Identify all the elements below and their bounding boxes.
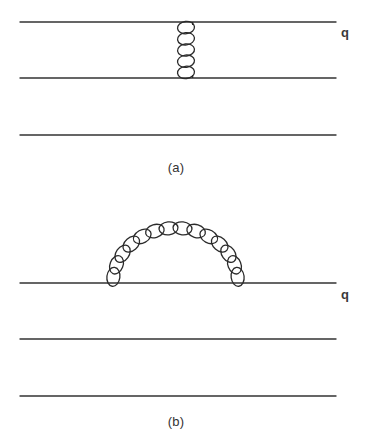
panel-a-quark-label: q — [341, 25, 349, 40]
feynman-diagram-canvas — [0, 0, 374, 440]
panel-b-caption: (b) — [168, 414, 185, 429]
panel-b-quark-label: q — [341, 287, 349, 302]
panel-a-caption: (a) — [168, 160, 185, 175]
feynman-figure: (a) (b) q q — [0, 0, 374, 440]
